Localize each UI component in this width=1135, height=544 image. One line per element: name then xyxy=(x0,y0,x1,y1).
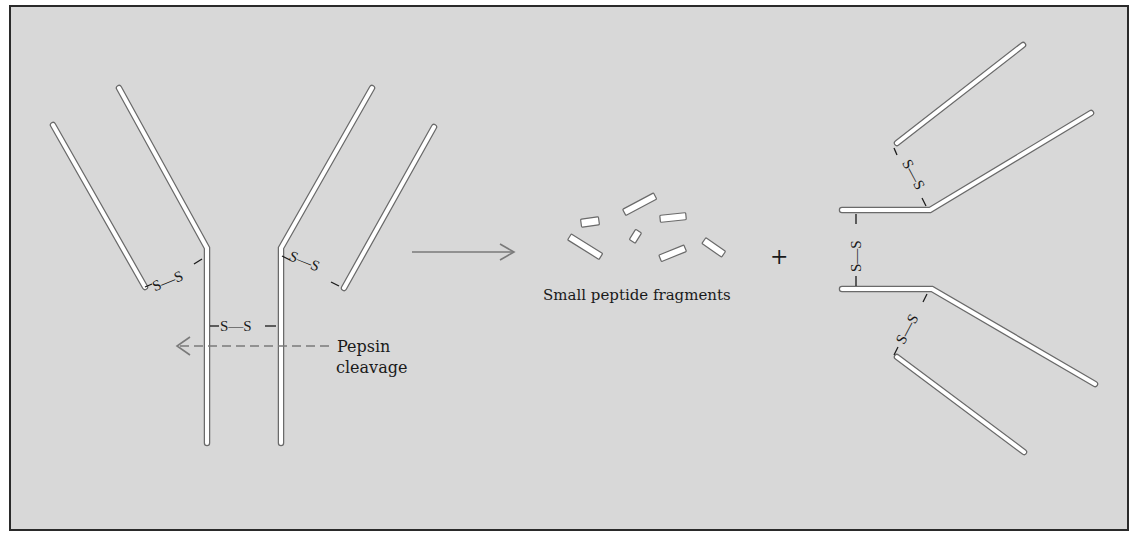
disulfide-bond-lower: S—S xyxy=(892,294,927,355)
fragment xyxy=(581,217,600,227)
svg-text:S—S: S—S xyxy=(892,311,921,346)
pepsin-cleavage-arrow xyxy=(177,337,333,355)
intact-antibody: S—S S—S S—S Pepsin cleavage xyxy=(53,88,434,443)
upper-heavy-chain xyxy=(842,113,1091,210)
fragments-label: Small peptide fragments xyxy=(543,286,731,304)
fragment xyxy=(660,213,687,223)
right-light-chain xyxy=(344,127,434,288)
lower-heavy-chain xyxy=(842,289,1095,384)
svg-text:S—S: S—S xyxy=(150,268,185,295)
disulfide-bond-right: S—S xyxy=(282,248,339,286)
fragment xyxy=(623,193,657,216)
lower-light-chain xyxy=(897,357,1024,452)
left-light-chain xyxy=(53,125,145,287)
disulfide-bond-hinge: S—S xyxy=(210,318,276,334)
svg-text:S—S: S—S xyxy=(287,248,322,275)
peptide-fragments xyxy=(568,193,726,262)
fragment xyxy=(568,234,603,260)
fragment xyxy=(702,238,726,257)
fab2-fragment: S—S S—S S—S xyxy=(842,45,1095,452)
plus-sign: + xyxy=(770,244,788,269)
antibody-pepsin-diagram: .chain { fill: none; stroke: #6a6a6a; st… xyxy=(0,0,1135,544)
disulfide-bond-upper: S—S xyxy=(894,148,928,206)
upper-light-chain xyxy=(897,45,1023,143)
pepsin-label: Pepsin xyxy=(337,337,390,356)
svg-text:S—S: S—S xyxy=(220,318,252,334)
fragment xyxy=(629,229,641,243)
disulfide-bond-left: S—S xyxy=(145,259,202,294)
fragment xyxy=(659,245,687,262)
reaction-arrow xyxy=(412,244,514,260)
cleavage-label: cleavage xyxy=(336,358,407,377)
svg-text:S—S: S—S xyxy=(899,157,928,192)
svg-text:S—S: S—S xyxy=(848,240,864,272)
disulfide-bond-hinge-fab: S—S xyxy=(848,214,864,286)
